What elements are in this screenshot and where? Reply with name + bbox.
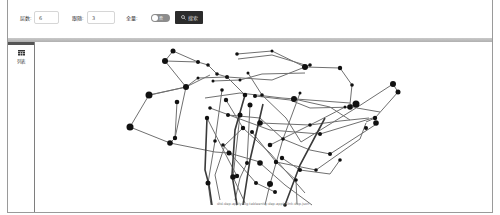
search-button[interactable]: 搜索 — [175, 11, 203, 24]
depth-label: 层数: — [20, 14, 32, 21]
search-icon — [181, 15, 186, 20]
toggle-text: 否 — [159, 15, 163, 21]
network-graph[interactable] — [35, 42, 492, 212]
follow-input[interactable]: 3 — [87, 11, 115, 24]
toggle-knob — [152, 15, 158, 21]
full-toggle[interactable]: 否 — [151, 14, 170, 22]
follow-label: 跟随: — [72, 14, 84, 21]
sidebar-item-label: 列表 — [12, 58, 30, 64]
sidebar-item-list[interactable]: 列表 — [12, 50, 30, 64]
search-label: 搜索 — [188, 14, 198, 21]
table-icon — [18, 50, 25, 56]
sidebar: 列表 — [8, 42, 35, 212]
depth-input[interactable]: 6 — [34, 11, 59, 24]
footer-caption: dtd-dep-apply-log-tableenity-dep-apply-l… — [217, 202, 309, 206]
full-label: 全量: — [126, 14, 138, 21]
graph-edges — [130, 51, 398, 205]
sidebar-active-indicator — [8, 42, 34, 45]
toolbar: 层数: 6 跟随: 3 全量: 否 搜索 — [8, 0, 492, 38]
